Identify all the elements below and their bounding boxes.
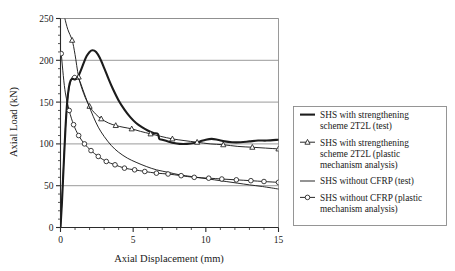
y-tick-label-250: 250 [39,14,54,24]
legend-label-3-line-0: SHS without CFRP (plastic [320,193,422,204]
series-marker-3 [122,166,127,171]
series-marker-3 [262,179,267,184]
legend-label-1-line-1: scheme 2T2L (plastic [320,149,400,160]
series-marker-3 [82,142,87,147]
legend-label-0-line-0: SHS with strengthening [320,110,409,120]
y-tick-label-50: 50 [44,181,54,191]
legend-label-0-line-1: scheme 2T2L (test) [320,121,392,132]
series-marker-3 [71,122,76,127]
series-marker-3 [89,148,94,153]
series-marker-3 [234,178,239,183]
series-marker-3 [220,177,225,182]
figure-container: 050100150200250051015 Axial Displacement… [0,0,455,271]
axial-load-vs-displacement-chart: 050100150200250051015 Axial Displacement… [0,0,455,271]
series-marker-3 [76,133,81,138]
legend-label-1-line-2: mechanism analysis) [320,160,398,171]
series-marker-3 [249,178,254,183]
legend-swatch-circle-marker [305,195,310,200]
x-tick-label-15: 15 [274,235,284,245]
x-axis-title: Axial Displacement (mm) [114,253,224,265]
series-marker-3 [179,173,184,178]
y-tick-label-200: 200 [39,56,54,66]
legend-label-3-line-1: mechanism analysis) [320,204,398,215]
series-marker-3 [206,176,211,181]
legend-label-2-line-0: SHS without CFRP (test) [320,176,414,187]
x-tick-label-10: 10 [201,235,211,245]
legend-label-1-line-0: SHS with strengthening [320,138,409,148]
y-tick-label-100: 100 [39,139,54,149]
series-marker-3 [142,169,147,174]
series-marker-3 [154,171,159,176]
y-tick-label-150: 150 [39,98,54,108]
chart-legend: SHS with strengtheningscheme 2T2L (test)… [294,107,447,226]
series-marker-3 [113,163,118,168]
series-marker-3 [96,154,101,159]
x-tick-label-5: 5 [131,235,136,245]
series-marker-3 [166,172,171,177]
series-marker-3 [192,175,197,180]
series-marker-3 [132,168,137,173]
series-marker-3 [104,159,109,164]
x-tick-label-0: 0 [58,235,63,245]
y-axis-title: Axial Load (kN) [8,87,20,157]
series-marker-3 [67,108,72,113]
y-tick-label-0: 0 [49,223,54,233]
